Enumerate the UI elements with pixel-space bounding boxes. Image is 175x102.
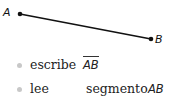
notation-ab: AB xyxy=(148,82,164,96)
segmento-word: segmento xyxy=(86,81,148,96)
bullet-icon xyxy=(17,87,22,92)
bullet-icon xyxy=(17,63,22,68)
point-b xyxy=(149,37,154,42)
verb-escribe: escribe xyxy=(30,57,76,72)
verb-lee: lee xyxy=(30,81,49,96)
notation-overline-ab: AB xyxy=(83,56,99,72)
segment-diagram xyxy=(0,0,175,50)
segment-ab-line xyxy=(20,14,151,39)
list-item-escribe: escribe AB xyxy=(0,57,175,73)
list-item-lee: lee segmento AB xyxy=(0,81,175,97)
point-a-label: A xyxy=(3,6,11,19)
point-b-label: B xyxy=(155,33,163,46)
point-a xyxy=(18,12,23,17)
